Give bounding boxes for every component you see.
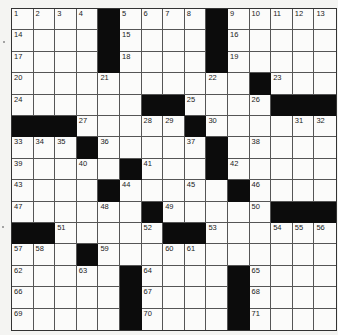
- grid-cell[interactable]: [34, 159, 56, 180]
- grid-cell[interactable]: 47: [12, 202, 34, 223]
- grid-cell[interactable]: 9: [228, 9, 250, 30]
- grid-cell[interactable]: 27: [77, 116, 99, 137]
- grid-cell[interactable]: 5: [120, 9, 142, 30]
- grid-cell[interactable]: [250, 116, 272, 137]
- grid-cell[interactable]: 57: [12, 244, 34, 265]
- grid-cell[interactable]: 10: [250, 9, 272, 30]
- grid-cell[interactable]: [98, 309, 120, 330]
- grid-cell[interactable]: [293, 137, 315, 158]
- grid-cell[interactable]: 19: [228, 52, 250, 73]
- grid-cell[interactable]: 70: [142, 309, 164, 330]
- grid-cell[interactable]: 55: [293, 223, 315, 244]
- grid-cell[interactable]: [185, 202, 207, 223]
- grid-cell[interactable]: [271, 180, 293, 201]
- grid-cell[interactable]: [271, 116, 293, 137]
- grid-cell[interactable]: 62: [12, 266, 34, 287]
- grid-cell[interactable]: [293, 287, 315, 308]
- grid-cell[interactable]: [142, 73, 164, 94]
- grid-cell[interactable]: 51: [55, 223, 77, 244]
- grid-cell[interactable]: [314, 73, 336, 94]
- grid-cell[interactable]: [228, 223, 250, 244]
- grid-cell[interactable]: [228, 73, 250, 94]
- grid-cell[interactable]: [55, 30, 77, 51]
- grid-cell[interactable]: 21: [98, 73, 120, 94]
- grid-cell[interactable]: [314, 287, 336, 308]
- grid-cell[interactable]: [55, 244, 77, 265]
- grid-cell[interactable]: [34, 30, 56, 51]
- grid-cell[interactable]: 31: [293, 116, 315, 137]
- grid-cell[interactable]: [34, 73, 56, 94]
- grid-cell[interactable]: 2: [34, 9, 56, 30]
- grid-cell[interactable]: [77, 202, 99, 223]
- grid-cell[interactable]: [293, 180, 315, 201]
- grid-cell[interactable]: 7: [163, 9, 185, 30]
- grid-cell[interactable]: [314, 159, 336, 180]
- grid-cell[interactable]: [228, 202, 250, 223]
- grid-cell[interactable]: 61: [185, 244, 207, 265]
- grid-cell[interactable]: [120, 137, 142, 158]
- grid-cell[interactable]: [55, 202, 77, 223]
- grid-cell[interactable]: [120, 73, 142, 94]
- grid-cell[interactable]: 58: [34, 244, 56, 265]
- grid-cell[interactable]: [77, 30, 99, 51]
- grid-cell[interactable]: [77, 73, 99, 94]
- grid-cell[interactable]: 43: [12, 180, 34, 201]
- grid-cell[interactable]: 26: [250, 95, 272, 116]
- grid-cell[interactable]: [228, 95, 250, 116]
- grid-cell[interactable]: [206, 180, 228, 201]
- grid-cell[interactable]: 28: [142, 116, 164, 137]
- grid-cell[interactable]: [34, 180, 56, 201]
- grid-cell[interactable]: [185, 309, 207, 330]
- grid-cell[interactable]: [271, 266, 293, 287]
- grid-cell[interactable]: [142, 137, 164, 158]
- grid-cell[interactable]: [271, 137, 293, 158]
- grid-cell[interactable]: 25: [185, 95, 207, 116]
- grid-cell[interactable]: 22: [206, 73, 228, 94]
- grid-cell[interactable]: [163, 287, 185, 308]
- grid-cell[interactable]: [98, 223, 120, 244]
- grid-cell[interactable]: [142, 30, 164, 51]
- grid-cell[interactable]: [185, 30, 207, 51]
- grid-cell[interactable]: [77, 309, 99, 330]
- grid-cell[interactable]: 30: [206, 116, 228, 137]
- grid-cell[interactable]: [55, 159, 77, 180]
- grid-cell[interactable]: [142, 180, 164, 201]
- grid-cell[interactable]: [55, 309, 77, 330]
- grid-cell[interactable]: 33: [12, 137, 34, 158]
- grid-cell[interactable]: [163, 266, 185, 287]
- grid-cell[interactable]: [55, 180, 77, 201]
- grid-cell[interactable]: [206, 266, 228, 287]
- grid-cell[interactable]: [163, 30, 185, 51]
- grid-cell[interactable]: [314, 180, 336, 201]
- grid-cell[interactable]: [314, 244, 336, 265]
- grid-cell[interactable]: [142, 52, 164, 73]
- grid-cell[interactable]: 14: [12, 30, 34, 51]
- grid-cell[interactable]: [120, 202, 142, 223]
- grid-cell[interactable]: [98, 266, 120, 287]
- grid-cell[interactable]: [228, 244, 250, 265]
- grid-cell[interactable]: [163, 180, 185, 201]
- grid-cell[interactable]: 3: [55, 9, 77, 30]
- grid-cell[interactable]: [206, 287, 228, 308]
- grid-cell[interactable]: 20: [12, 73, 34, 94]
- grid-cell[interactable]: [271, 159, 293, 180]
- grid-cell[interactable]: [206, 95, 228, 116]
- grid-cell[interactable]: [120, 95, 142, 116]
- grid-cell[interactable]: [250, 223, 272, 244]
- grid-cell[interactable]: [314, 30, 336, 51]
- grid-cell[interactable]: 60: [163, 244, 185, 265]
- grid-cell[interactable]: 32: [314, 116, 336, 137]
- grid-cell[interactable]: [55, 287, 77, 308]
- grid-cell[interactable]: [228, 137, 250, 158]
- grid-cell[interactable]: [271, 287, 293, 308]
- grid-cell[interactable]: [185, 52, 207, 73]
- grid-cell[interactable]: [77, 223, 99, 244]
- grid-cell[interactable]: 13: [314, 9, 336, 30]
- grid-cell[interactable]: [55, 266, 77, 287]
- grid-cell[interactable]: 50: [250, 202, 272, 223]
- grid-cell[interactable]: 12: [293, 9, 315, 30]
- grid-cell[interactable]: [250, 52, 272, 73]
- grid-cell[interactable]: [185, 159, 207, 180]
- grid-cell[interactable]: 69: [12, 309, 34, 330]
- grid-cell[interactable]: [142, 244, 164, 265]
